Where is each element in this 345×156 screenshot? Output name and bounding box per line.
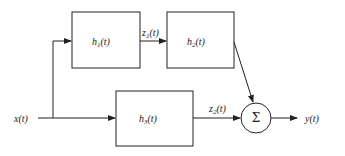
input-label: x(t) bbox=[13, 113, 29, 125]
h2-to-sum-arrow bbox=[234, 42, 253, 102]
summing-junction: Σ bbox=[241, 103, 271, 133]
block-h3: h3(t) bbox=[116, 91, 193, 146]
output-label: y(t) bbox=[304, 113, 320, 125]
block-h1: h1(t) bbox=[72, 12, 140, 68]
sigma-symbol: Σ bbox=[252, 111, 260, 125]
z1-label: z1(t) bbox=[141, 27, 160, 40]
block-h2: h2(t) bbox=[167, 12, 234, 68]
input-to-h1-arrow bbox=[53, 41, 71, 118]
block-diagram: x(t) h1(t) z1(t) h2(t) h3(t) z2(t) Σ y(t… bbox=[0, 0, 345, 156]
z2-label: z2(t) bbox=[208, 103, 227, 116]
